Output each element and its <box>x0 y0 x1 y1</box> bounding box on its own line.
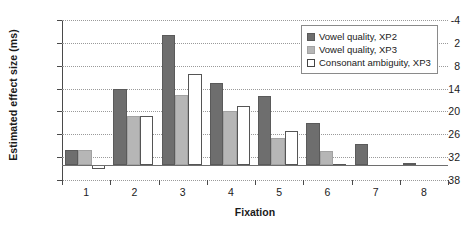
bar <box>355 144 368 165</box>
x-tick-mark <box>352 180 353 185</box>
bar <box>65 150 78 165</box>
x-tick-label: 4 <box>216 186 246 198</box>
bar <box>78 150 91 164</box>
bar <box>271 138 284 165</box>
legend-item-vowel-quality-xp2: Vowel quality, XP2 <box>307 30 431 43</box>
bar <box>320 151 333 164</box>
x-tick-mark <box>62 180 63 185</box>
y-axis-title: Estimated effect size (ms) <box>2 0 24 190</box>
legend-label: Vowel quality, XP2 <box>319 31 397 42</box>
x-tick-label: 8 <box>409 186 439 198</box>
gridline <box>62 20 448 21</box>
chart-legend: Vowel quality, XP2 Vowel quality, XP3 Co… <box>301 25 438 74</box>
legend-swatch-icon <box>307 46 315 54</box>
y-axis-title-text: Estimated effect size (ms) <box>7 29 19 161</box>
bar <box>175 95 188 164</box>
legend-item-vowel-quality-xp3: Vowel quality, XP3 <box>307 43 431 56</box>
x-tick-mark <box>303 180 304 185</box>
x-tick-mark <box>110 180 111 185</box>
bar <box>188 74 201 164</box>
bar <box>223 111 236 164</box>
zero-baseline <box>62 165 448 166</box>
x-tick-label: 1 <box>71 186 101 198</box>
x-tick-label: 5 <box>264 186 294 198</box>
bar <box>127 116 140 165</box>
bar-chart: Estimated effect size (ms) 383226201482-… <box>0 0 465 235</box>
bar <box>140 116 153 165</box>
x-tick-mark <box>448 180 449 185</box>
legend-swatch-icon <box>307 33 315 41</box>
bar <box>237 106 250 164</box>
x-tick-mark <box>255 180 256 185</box>
bar <box>285 131 298 165</box>
legend-label: Consonant ambiguity, XP3 <box>319 57 431 68</box>
bar <box>306 123 319 165</box>
bar <box>162 35 175 165</box>
legend-item-consonant-ambiguity-xp3: Consonant ambiguity, XP3 <box>307 56 431 69</box>
bar <box>113 89 126 164</box>
x-tick-mark <box>159 180 160 185</box>
bar <box>210 83 223 165</box>
x-tick-mark <box>207 180 208 185</box>
x-tick-mark <box>400 180 401 185</box>
x-tick-label: 6 <box>312 186 342 198</box>
legend-label: Vowel quality, XP3 <box>319 44 397 55</box>
x-axis-title: Fixation <box>62 206 448 218</box>
x-tick-label: 3 <box>168 186 198 198</box>
x-tick-label: 7 <box>361 186 391 198</box>
legend-swatch-icon <box>307 59 315 67</box>
bar <box>258 96 271 165</box>
x-tick-label: 2 <box>119 186 149 198</box>
